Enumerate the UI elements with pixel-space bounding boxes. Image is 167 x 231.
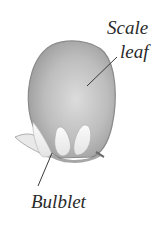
scale-leaf-label-line1: Scale [107,18,148,37]
bulblet-leader-line [38,153,52,186]
diagram-figure: Scale leaf Bulblet [0,0,167,231]
bulblet-label: Bulblet [31,192,86,211]
scale-leaf-label-line2: leaf [120,42,149,61]
